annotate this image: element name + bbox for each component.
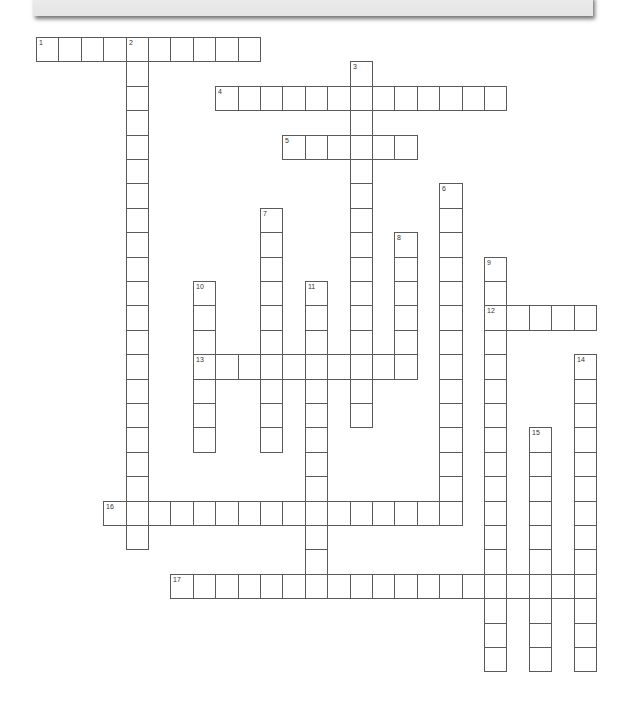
crossword-cell[interactable] xyxy=(529,452,552,477)
crossword-cell[interactable] xyxy=(193,37,216,62)
crossword-cell[interactable] xyxy=(574,379,597,404)
crossword-cell[interactable] xyxy=(305,305,328,331)
crossword-cell[interactable] xyxy=(484,525,507,550)
crossword-cell[interactable] xyxy=(126,379,149,404)
crossword-cell[interactable] xyxy=(282,574,306,599)
crossword-cell[interactable] xyxy=(305,574,328,599)
crossword-cell[interactable] xyxy=(126,452,149,477)
crossword-cell[interactable] xyxy=(439,257,463,282)
crossword-cell[interactable] xyxy=(193,379,216,404)
crossword-cell[interactable]: 6 xyxy=(439,183,463,209)
crossword-cell[interactable] xyxy=(439,427,463,453)
crossword-cell[interactable] xyxy=(350,159,373,184)
crossword-cell[interactable] xyxy=(260,427,283,453)
crossword-cell[interactable] xyxy=(529,525,552,550)
crossword-cell[interactable] xyxy=(103,37,127,62)
crossword-cell[interactable] xyxy=(126,525,149,550)
crossword-cell[interactable] xyxy=(193,403,216,428)
crossword-cell[interactable] xyxy=(529,476,552,502)
crossword-cell[interactable]: 12 xyxy=(484,305,507,331)
crossword-cell[interactable] xyxy=(439,452,463,477)
crossword-cell[interactable] xyxy=(305,354,328,380)
crossword-cell[interactable] xyxy=(260,257,283,282)
crossword-cell[interactable] xyxy=(260,330,283,355)
crossword-cell[interactable] xyxy=(574,623,597,648)
crossword-cell[interactable] xyxy=(574,501,597,526)
crossword-cell[interactable] xyxy=(126,110,149,136)
crossword-cell[interactable] xyxy=(350,574,373,599)
crossword-cell[interactable]: 5 xyxy=(282,135,306,160)
crossword-cell[interactable] xyxy=(439,232,463,258)
crossword-cell[interactable] xyxy=(148,501,171,526)
crossword-cell[interactable] xyxy=(126,135,149,160)
crossword-cell[interactable] xyxy=(305,525,328,550)
crossword-cell[interactable] xyxy=(327,574,351,599)
crossword-cell[interactable] xyxy=(126,159,149,184)
crossword-cell[interactable] xyxy=(126,501,149,526)
crossword-cell[interactable] xyxy=(126,305,149,331)
crossword-cell[interactable] xyxy=(484,379,507,404)
crossword-cell[interactable] xyxy=(126,232,149,258)
crossword-cell[interactable] xyxy=(439,208,463,233)
crossword-cell[interactable] xyxy=(193,330,216,355)
crossword-cell[interactable] xyxy=(574,598,597,624)
crossword-cell[interactable]: 10 xyxy=(193,281,216,306)
crossword-cell[interactable] xyxy=(484,647,507,672)
crossword-cell[interactable] xyxy=(529,305,552,331)
crossword-cell[interactable] xyxy=(350,281,373,306)
crossword-cell[interactable] xyxy=(462,86,485,111)
crossword-cell[interactable]: 7 xyxy=(260,208,283,233)
crossword-cell[interactable] xyxy=(394,305,418,331)
crossword-cell[interactable] xyxy=(439,501,463,526)
crossword-cell[interactable] xyxy=(350,110,373,136)
crossword-cell[interactable] xyxy=(394,330,418,355)
crossword-cell[interactable] xyxy=(484,549,507,575)
crossword-cell[interactable] xyxy=(260,574,283,599)
crossword-cell[interactable]: 14 xyxy=(574,354,597,380)
crossword-cell[interactable] xyxy=(193,427,216,453)
crossword-cell[interactable] xyxy=(238,501,261,526)
crossword-cell[interactable] xyxy=(260,86,283,111)
crossword-cell[interactable] xyxy=(372,135,395,160)
crossword-cell[interactable] xyxy=(282,354,306,380)
crossword-cell[interactable] xyxy=(350,208,373,233)
crossword-cell[interactable]: 2 xyxy=(126,37,149,62)
crossword-cell[interactable] xyxy=(170,37,194,62)
crossword-cell[interactable] xyxy=(282,501,306,526)
crossword-cell[interactable] xyxy=(193,305,216,331)
crossword-cell[interactable] xyxy=(327,135,351,160)
crossword-cell[interactable] xyxy=(439,354,463,380)
crossword-cell[interactable]: 3 xyxy=(350,61,373,87)
crossword-cell[interactable] xyxy=(484,574,507,599)
crossword-cell[interactable] xyxy=(484,427,507,453)
crossword-cell[interactable] xyxy=(260,379,283,404)
crossword-cell[interactable] xyxy=(394,574,418,599)
crossword-cell[interactable] xyxy=(484,476,507,502)
crossword-cell[interactable] xyxy=(394,257,418,282)
crossword-cell[interactable] xyxy=(394,354,418,380)
crossword-cell[interactable] xyxy=(260,281,283,306)
crossword-cell[interactable] xyxy=(260,232,283,258)
crossword-cell[interactable] xyxy=(305,330,328,355)
crossword-cell[interactable] xyxy=(551,574,575,599)
crossword-cell[interactable] xyxy=(484,598,507,624)
crossword-cell[interactable] xyxy=(574,525,597,550)
crossword-cell[interactable] xyxy=(574,305,597,331)
crossword-cell[interactable] xyxy=(529,623,552,648)
crossword-cell[interactable] xyxy=(574,452,597,477)
crossword-cell[interactable] xyxy=(305,427,328,453)
crossword-cell[interactable] xyxy=(305,452,328,477)
crossword-cell[interactable] xyxy=(126,183,149,209)
crossword-cell[interactable] xyxy=(439,330,463,355)
crossword-cell[interactable] xyxy=(350,257,373,282)
crossword-cell[interactable] xyxy=(484,452,507,477)
crossword-cell[interactable] xyxy=(574,476,597,502)
crossword-cell[interactable] xyxy=(529,549,552,575)
crossword-cell[interactable] xyxy=(305,549,328,575)
crossword-cell[interactable] xyxy=(126,281,149,306)
crossword-cell[interactable] xyxy=(574,403,597,428)
crossword-cell[interactable] xyxy=(305,476,328,502)
crossword-cell[interactable] xyxy=(126,257,149,282)
crossword-cell[interactable]: 11 xyxy=(305,281,328,306)
crossword-cell[interactable] xyxy=(394,86,418,111)
